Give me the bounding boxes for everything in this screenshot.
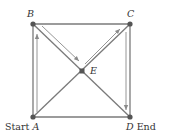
label-end: End xyxy=(134,121,156,132)
label-b: B xyxy=(26,8,34,19)
node-a xyxy=(30,114,35,119)
arrow-e-to-c xyxy=(85,29,120,64)
label-d-end: D End xyxy=(125,121,156,132)
arrow-b-to-e xyxy=(42,26,79,61)
node-c xyxy=(127,21,132,26)
label-c: C xyxy=(127,8,135,19)
label-e: E xyxy=(89,65,97,76)
node-d xyxy=(127,114,132,119)
label-a: A xyxy=(31,121,39,132)
node-e xyxy=(80,69,85,74)
node-b xyxy=(30,21,35,26)
label-start: Start xyxy=(5,121,32,132)
label-start-a: Start A xyxy=(5,121,39,132)
path-diagram: B C E Start A D End xyxy=(0,0,172,137)
